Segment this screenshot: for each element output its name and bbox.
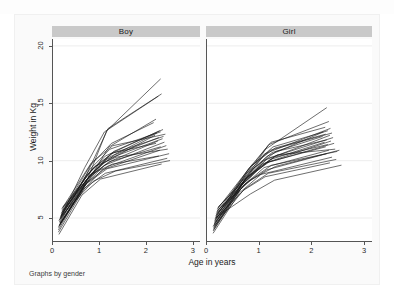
plot-area-girl <box>206 39 372 241</box>
trajectory-line <box>215 154 327 223</box>
trajectory-lines-girl <box>207 39 372 241</box>
x-tick-label-boy-3: 3 <box>186 246 200 255</box>
x-tick-label-boy-2: 2 <box>139 246 153 255</box>
figure-note: Graphs by gender <box>29 270 85 277</box>
trajectory-lines-boy <box>53 39 200 241</box>
x-tick-boy-1 <box>99 242 100 245</box>
x-axis-girl <box>206 241 372 242</box>
trajectory-line <box>60 139 163 222</box>
panel-header-boy: Boy <box>52 26 200 37</box>
x-tick-girl-0 <box>206 242 207 245</box>
trajectory-line <box>215 133 331 218</box>
scan-artifact-strip <box>0 0 394 14</box>
panel-header-girl: Girl <box>206 26 372 37</box>
x-tick-girl-3 <box>364 242 365 245</box>
trajectory-line <box>214 108 327 229</box>
figure-container: Boy Girl 012301235101520 Weight in Kg Ag… <box>0 0 394 304</box>
x-tick-label-girl-2: 2 <box>304 246 318 255</box>
y-axis-label: Weight in Kg <box>28 84 38 170</box>
x-axis-boy <box>52 241 200 242</box>
x-tick-girl-1 <box>259 242 260 245</box>
x-tick-label-boy-1: 1 <box>92 246 106 255</box>
x-tick-boy-2 <box>146 242 147 245</box>
plot-area-boy <box>52 39 200 241</box>
trajectory-line <box>59 131 159 221</box>
x-axis-label: Age in years <box>52 257 372 267</box>
y-tick-20 <box>49 46 52 47</box>
x-tick-boy-0 <box>52 242 53 245</box>
x-tick-label-girl-3: 3 <box>357 246 371 255</box>
x-tick-label-girl-1: 1 <box>252 246 266 255</box>
y-tick-15 <box>49 103 52 104</box>
trajectory-line <box>59 135 155 229</box>
y-tick-5 <box>49 218 52 219</box>
x-tick-boy-3 <box>193 242 194 245</box>
x-tick-label-girl-0: 0 <box>199 246 213 255</box>
trajectory-line <box>59 142 164 226</box>
x-tick-girl-2 <box>311 242 312 245</box>
y-tick-label-5: 5 <box>36 211 45 225</box>
y-tick-label-20: 20 <box>36 38 45 52</box>
y-tick-10 <box>49 161 52 162</box>
trajectory-line <box>216 160 336 219</box>
x-tick-label-boy-0: 0 <box>45 246 59 255</box>
trajectory-line <box>62 156 159 212</box>
trajectory-line <box>216 142 324 215</box>
